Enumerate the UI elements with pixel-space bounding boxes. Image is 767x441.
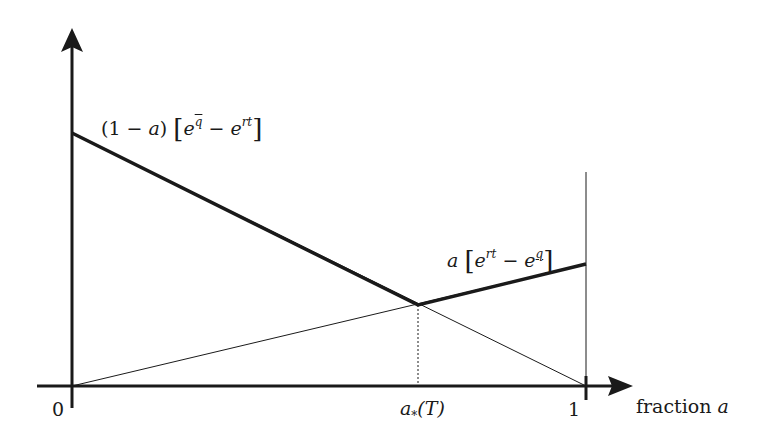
label-var: e bbox=[230, 117, 241, 139]
tick-label-origin: 0 bbox=[52, 400, 64, 419]
label-text: fraction bbox=[636, 395, 718, 417]
bracket-open: [ bbox=[173, 114, 183, 144]
label-text: ) bbox=[160, 117, 173, 139]
bracket-close: ] bbox=[252, 114, 262, 144]
label-var: a bbox=[718, 395, 729, 417]
label-text: (T) bbox=[417, 397, 445, 419]
label-text: (1 − bbox=[101, 117, 149, 139]
bracket-open: [ bbox=[464, 246, 474, 276]
exponent: rt bbox=[242, 115, 253, 129]
upper-curve-label: (1 − a) [eq − ert] bbox=[101, 116, 262, 142]
diagram-canvas bbox=[0, 0, 767, 441]
label-var: a bbox=[149, 117, 160, 139]
label-var: a bbox=[447, 249, 458, 271]
tick-label-one: 1 bbox=[568, 400, 580, 419]
thick-envelope-line bbox=[72, 133, 586, 305]
label-text: − bbox=[496, 249, 524, 271]
lower-curve-label: a [ert − eq] bbox=[447, 248, 553, 274]
bracket-close: ] bbox=[543, 246, 553, 276]
exponent: rt bbox=[486, 247, 497, 261]
label-var: e bbox=[524, 249, 535, 271]
x-axis-label: fraction a bbox=[636, 397, 729, 416]
label-var: e bbox=[183, 117, 194, 139]
label-text: − bbox=[202, 117, 230, 139]
tick-label-a-star: a*(T) bbox=[400, 399, 445, 422]
label-var: a bbox=[400, 397, 411, 419]
label-var: e bbox=[475, 249, 486, 271]
